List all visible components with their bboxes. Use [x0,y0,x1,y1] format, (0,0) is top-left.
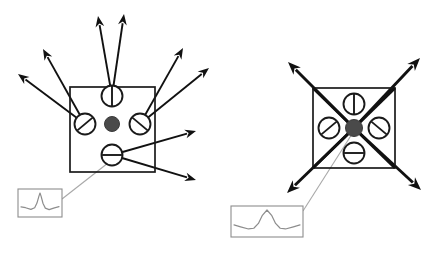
right-configuration-center-dot [346,120,363,137]
left-configuration-ray-left-b-head [18,74,29,84]
figure-canvas [0,0,431,253]
left-configuration-center-dot [105,117,120,132]
scattering-figure [0,0,431,253]
